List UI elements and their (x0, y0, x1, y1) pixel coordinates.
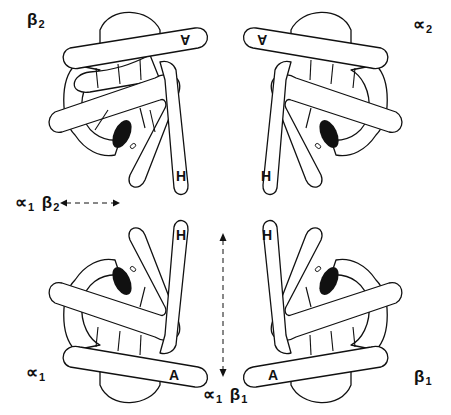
subunit-alpha1 (49, 221, 207, 403)
helix-h-label-alpha2: H (261, 169, 271, 183)
interface-label-alpha1-beta2: ∝1 β2 (15, 194, 59, 213)
interface-arrow-alpha1-beta2 (60, 200, 120, 207)
subunit-label-alpha2: ∝2 (413, 16, 432, 35)
helix-h-label-beta2: H (176, 169, 186, 183)
hemoglobin-subunit-diagram (0, 0, 451, 415)
helix-a-label-beta2: A (180, 33, 190, 47)
helix-a-label-alpha1: A (169, 368, 179, 382)
subunit-label-beta2: β2 (27, 11, 45, 30)
helix-a-label-beta1: A (268, 368, 278, 382)
helix-h-label-alpha1: H (176, 228, 186, 242)
subunit-label-alpha1: ∝1 (26, 364, 45, 383)
helix-h-label-beta1: H (262, 228, 272, 242)
subunit-label-beta1: β1 (414, 368, 432, 387)
helix-a-label-alpha2: A (257, 33, 267, 47)
interface-label-alpha1-beta1: ∝1 β1 (203, 386, 247, 405)
interface-arrow-alpha1-beta1 (220, 233, 227, 377)
